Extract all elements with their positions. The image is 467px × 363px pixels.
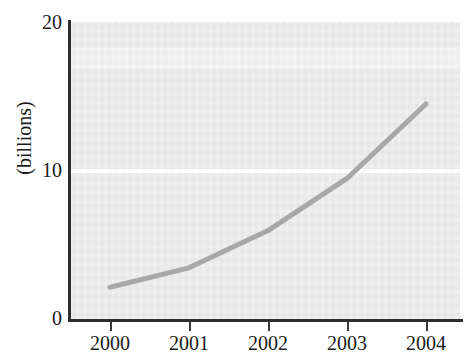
line-chart: 20 10 0 (billions) 2000 2001 2002 2003 2… [0,0,467,363]
x-axis-tick-label-2001: 2001 [154,332,224,354]
y-axis-tick-label-20: 20 [36,11,62,34]
x-axis-tick [426,322,428,331]
plot-area [70,22,460,320]
x-axis-tick [110,322,112,331]
y-axis-tick-label-0: 0 [36,307,62,330]
x-axis-tick [268,322,270,331]
scan-band [70,48,460,68]
cut-off-caption-fragment [0,352,467,363]
x-axis-tick [189,322,191,331]
x-axis-tick-label-2004: 2004 [391,332,461,354]
x-axis-tick [347,322,349,331]
y-axis-tick-label-10: 10 [36,159,62,182]
y-axis-title: (billions) [14,88,34,188]
x-axis-tick-label-2002: 2002 [233,332,303,354]
gridline-y-10 [70,169,460,173]
y-axis-spine [68,20,71,322]
x-axis-tick-label-2003: 2003 [312,332,382,354]
x-axis-tick-label-2000: 2000 [75,332,145,354]
x-axis-spine [68,319,463,322]
